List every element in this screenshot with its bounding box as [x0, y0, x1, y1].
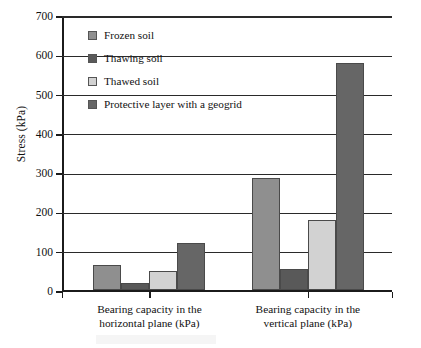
- x-axis-category-label-line: Bearing capacity in the: [64, 302, 234, 316]
- legend-item-label: Protective layer with a geogrid: [104, 99, 242, 110]
- bar-chart-figure: Stress (kPa) 0100200300400500600700 Bear…: [0, 0, 421, 348]
- bar-protective-layer-with-a-geogrid: [177, 243, 205, 290]
- bar-frozen-soil: [93, 265, 121, 291]
- bar-thawed-soil: [149, 271, 177, 291]
- legend-item: Thawing soil: [88, 47, 242, 70]
- legend-item-label: Frozen soil: [104, 30, 154, 41]
- x-axis-tick: [149, 292, 150, 298]
- bar-thawing-soil: [121, 283, 149, 291]
- y-axis-tick-label: 700: [36, 11, 53, 23]
- bar-thawed-soil: [308, 220, 336, 291]
- x-axis-category-label: Bearing capacity in thehorizontal plane …: [64, 302, 234, 331]
- x-axis-category-label-line: horizontal plane (kPa): [64, 316, 234, 330]
- chart-legend: Frozen soilThawing soilThawed soilProtec…: [88, 24, 242, 116]
- legend-item-label: Thawed soil: [104, 76, 159, 87]
- y-axis-tick-label: 500: [36, 90, 53, 102]
- y-axis-tick-label: 300: [36, 168, 53, 180]
- legend-item: Frozen soil: [88, 24, 242, 47]
- y-axis-tick-label: 0: [47, 286, 53, 298]
- legend-item-label: Thawing soil: [104, 53, 163, 64]
- legend-swatch-icon: [88, 77, 97, 86]
- x-axis-tick: [308, 292, 309, 298]
- x-axis-line: [62, 290, 392, 292]
- bar-frozen-soil: [252, 178, 280, 290]
- y-axis-title: Stress (kPa): [15, 89, 27, 179]
- x-axis-category-label: Bearing capacity in thevertical plane (k…: [223, 302, 393, 331]
- legend-item: Thawed soil: [88, 70, 242, 93]
- x-axis-boundary-tick: [62, 292, 63, 298]
- legend-swatch-icon: [88, 54, 97, 63]
- bar-thawing-soil: [280, 269, 308, 291]
- legend-swatch-icon: [88, 100, 97, 109]
- y-axis-tick-label: 200: [36, 208, 53, 220]
- scan-artifact: [96, 335, 216, 344]
- y-axis-tick-label: 100: [36, 247, 53, 259]
- y-axis-tick-label: 400: [36, 129, 53, 141]
- x-axis-boundary-tick: [392, 292, 393, 298]
- legend-item: Protective layer with a geogrid: [88, 93, 242, 116]
- y-axis-tick-label: 600: [36, 51, 53, 63]
- x-axis-category-label-line: vertical plane (kPa): [223, 316, 393, 330]
- x-axis-category-label-line: Bearing capacity in the: [223, 302, 393, 316]
- bar-protective-layer-with-a-geogrid: [336, 63, 364, 291]
- legend-swatch-icon: [88, 31, 97, 40]
